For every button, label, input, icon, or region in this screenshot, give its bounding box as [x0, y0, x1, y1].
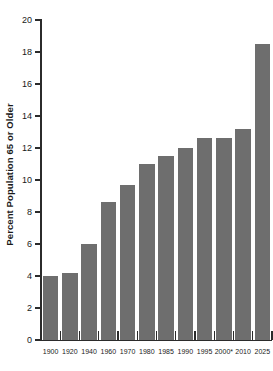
bar-chart: Percent Population 65 or Older 024681012…: [0, 0, 273, 371]
x-axis-tick-label: 1920: [62, 348, 78, 355]
x-axis-tick-label: 1900: [43, 348, 59, 355]
bar: [139, 164, 154, 340]
y-axis-tick-label: 16: [2, 80, 32, 89]
bar: [235, 129, 250, 340]
plot-area: [41, 20, 272, 340]
y-axis-tick-label: 0: [2, 336, 32, 345]
x-axis-tick-label: 1980: [139, 348, 155, 355]
x-axis-tick-label: 1995: [197, 348, 213, 355]
bar: [216, 138, 231, 340]
x-axis-tick: [252, 331, 253, 340]
x-axis-tick: [271, 331, 272, 340]
y-axis-tick-label: 10: [2, 176, 32, 185]
x-axis-tick-label: 1985: [158, 348, 174, 355]
y-axis-tick-label: 8: [2, 208, 32, 217]
bar: [197, 138, 212, 340]
bar: [43, 276, 58, 340]
y-axis-tick-label: 6: [2, 240, 32, 249]
x-axis-tick: [60, 331, 61, 340]
x-axis-tick-label: 2000*: [215, 348, 233, 355]
y-axis-title-text: Percent Population 65 or Older: [4, 103, 15, 245]
x-axis-tick: [214, 331, 215, 340]
x-axis-tick: [175, 331, 176, 340]
x-axis-tick-label: 1990: [178, 348, 194, 355]
bar: [120, 185, 135, 340]
x-axis-tick: [156, 331, 157, 340]
x-axis-tick-label: 2025: [255, 348, 271, 355]
y-axis-tick-label: 2: [2, 304, 32, 313]
y-axis-tick-label: 12: [2, 144, 32, 153]
x-axis-tick: [233, 331, 234, 340]
bar: [101, 202, 116, 340]
bar: [178, 148, 193, 340]
y-axis-tick-label: 20: [2, 16, 32, 25]
bar: [255, 44, 270, 340]
y-axis-tick-label: 14: [2, 112, 32, 121]
y-axis-tick-label: 4: [2, 272, 32, 281]
bar: [62, 273, 77, 340]
x-axis-tick-label: 1940: [81, 348, 97, 355]
y-axis-tick-label: 18: [2, 48, 32, 57]
bar: [81, 244, 96, 340]
x-axis-tick: [137, 331, 138, 340]
x-axis-tick-label: 1970: [120, 348, 136, 355]
x-axis-tick: [98, 331, 99, 340]
bar: [158, 156, 173, 340]
x-axis-tick: [117, 331, 118, 340]
x-axis-tick-label: 2010: [235, 348, 251, 355]
x-axis-tick: [194, 331, 195, 340]
x-axis-tick-label: 1960: [101, 348, 117, 355]
x-axis-tick: [79, 331, 80, 340]
